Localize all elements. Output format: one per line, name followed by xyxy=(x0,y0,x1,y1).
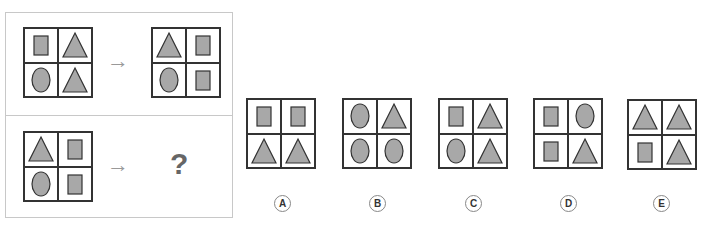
rectangle-shape xyxy=(638,143,652,162)
triangle-icon xyxy=(475,101,505,131)
ellipse-icon xyxy=(26,169,56,199)
grid-cell xyxy=(439,99,473,134)
ellipse-shape xyxy=(351,104,369,128)
rectangle-shape xyxy=(257,107,271,126)
grid-cell xyxy=(58,63,92,98)
ellipse-icon xyxy=(154,65,184,95)
rectangle-icon xyxy=(536,136,566,166)
panel-divider xyxy=(5,115,233,116)
ellipse-shape xyxy=(576,104,594,128)
triangle-icon xyxy=(154,30,184,60)
option-d-grid[interactable] xyxy=(533,98,603,169)
option-a-grid[interactable] xyxy=(246,98,316,169)
option-e-label[interactable]: E xyxy=(653,195,670,212)
ellipse-icon xyxy=(379,136,409,166)
rectangle-icon xyxy=(26,30,56,60)
ellipse-shape xyxy=(447,139,465,163)
grid-cell xyxy=(473,134,507,169)
rectangle-icon xyxy=(249,101,279,131)
triangle-icon xyxy=(249,136,279,166)
rectangle-shape xyxy=(68,175,82,194)
rectangle-shape xyxy=(544,142,558,161)
triangle-shape xyxy=(382,104,406,128)
rectangle-shape xyxy=(544,107,558,126)
option-d-label[interactable]: D xyxy=(560,195,577,212)
ellipse-shape xyxy=(385,139,403,163)
rectangle-icon xyxy=(188,30,218,60)
rectangle-icon xyxy=(441,101,471,131)
triangle-shape xyxy=(29,137,53,161)
grid-cell xyxy=(186,28,220,63)
grid-cell xyxy=(152,28,186,63)
triangle-icon xyxy=(283,136,313,166)
grid-cell xyxy=(24,28,58,63)
grid-cell xyxy=(247,99,281,134)
grid-cell xyxy=(377,99,411,134)
triangle-icon xyxy=(664,137,694,167)
ellipse-icon xyxy=(26,65,56,95)
triangle-icon xyxy=(664,102,694,132)
rectangle-shape xyxy=(291,107,305,126)
triangle-shape xyxy=(157,33,181,57)
ellipse-shape xyxy=(32,172,50,196)
ellipse-shape xyxy=(160,68,178,92)
option-a-label[interactable]: A xyxy=(274,195,291,212)
rectangle-icon xyxy=(536,101,566,131)
grid-cell xyxy=(628,100,662,135)
ellipse-icon xyxy=(570,101,600,131)
arrow-icon: → xyxy=(107,48,129,74)
grid-cell xyxy=(58,28,92,63)
rectangle-icon xyxy=(188,65,218,95)
test-input-grid xyxy=(23,131,93,202)
grid-cell xyxy=(24,132,58,167)
grid-cell xyxy=(534,99,568,134)
rectangle-shape xyxy=(68,140,82,159)
option-c-label[interactable]: C xyxy=(465,195,482,212)
triangle-icon xyxy=(630,102,660,132)
option-c-grid[interactable] xyxy=(438,98,508,169)
grid-cell xyxy=(343,134,377,169)
grid-cell xyxy=(662,100,696,135)
triangle-shape xyxy=(478,104,502,128)
ellipse-icon xyxy=(441,136,471,166)
rectangle-shape xyxy=(449,107,463,126)
triangle-shape xyxy=(667,105,691,129)
triangle-shape xyxy=(573,139,597,163)
grid-cell xyxy=(281,99,315,134)
rectangle-icon xyxy=(60,169,90,199)
triangle-icon xyxy=(60,65,90,95)
triangle-icon xyxy=(60,30,90,60)
ellipse-shape xyxy=(32,68,50,92)
grid-cell xyxy=(58,167,92,202)
grid-cell xyxy=(152,63,186,98)
triangle-icon xyxy=(570,136,600,166)
unknown-answer-mark: ? xyxy=(170,147,188,181)
arrow-icon: → xyxy=(107,152,129,178)
rectangle-shape xyxy=(34,36,48,55)
triangle-shape xyxy=(63,33,87,57)
triangle-shape xyxy=(667,140,691,164)
grid-cell xyxy=(58,132,92,167)
example-input-grid xyxy=(23,27,93,98)
ellipse-icon xyxy=(345,101,375,131)
grid-cell xyxy=(473,99,507,134)
triangle-shape xyxy=(63,68,87,92)
rectangle-icon xyxy=(630,137,660,167)
option-b-grid[interactable] xyxy=(342,98,412,169)
grid-cell xyxy=(24,167,58,202)
triangle-icon xyxy=(26,134,56,164)
grid-cell xyxy=(439,134,473,169)
rectangle-icon xyxy=(60,134,90,164)
rectangle-shape xyxy=(196,36,210,55)
grid-cell xyxy=(377,134,411,169)
option-b-label[interactable]: B xyxy=(369,195,386,212)
option-e-grid[interactable] xyxy=(627,99,697,170)
rectangle-shape xyxy=(196,71,210,90)
grid-cell xyxy=(343,99,377,134)
grid-cell xyxy=(534,134,568,169)
triangle-icon xyxy=(379,101,409,131)
example-output-grid xyxy=(151,27,221,98)
rectangle-icon xyxy=(283,101,313,131)
grid-cell xyxy=(662,135,696,170)
triangle-shape xyxy=(633,105,657,129)
